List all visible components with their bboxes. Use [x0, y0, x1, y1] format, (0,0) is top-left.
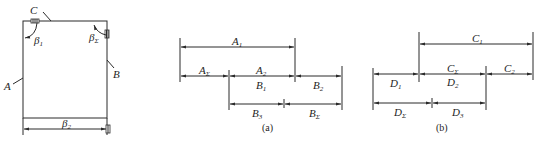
label-b-sigma: BΣ	[309, 107, 321, 121]
label-b1: B1	[256, 79, 266, 93]
label-c-sigma: CΣ	[447, 62, 459, 76]
label-a-sigma: AΣ	[198, 64, 211, 78]
label-c2: C2	[504, 62, 515, 76]
label-d3: D3	[451, 106, 464, 120]
leader-b	[107, 60, 114, 68]
label-d-sigma: DΣ	[393, 106, 407, 120]
part-rectangle-figure: C A B β1 βΣ β2	[3, 4, 120, 135]
label-d2: D2	[446, 76, 459, 90]
label-c1: C1	[472, 32, 483, 46]
label-b3: B3	[252, 107, 263, 121]
label-beta1: β1	[33, 34, 43, 48]
caption-b: (b)	[436, 122, 448, 134]
label-beta2: β2	[61, 117, 71, 131]
dimension-chain-diagrams: C A B β1 βΣ β2 A1 AΣ A2 B1 B2 B3 BΣ (a)	[0, 0, 537, 146]
label-a: A	[3, 80, 11, 92]
caption-a: (a)	[262, 122, 273, 134]
label-d1: D1	[389, 77, 401, 91]
label-c: C	[30, 4, 38, 16]
dimension-chain-a: A1 AΣ A2 B1 B2 B3 BΣ (a)	[180, 35, 342, 134]
leader-a	[13, 78, 23, 84]
label-a1: A1	[231, 35, 242, 49]
label-b2: B2	[313, 79, 324, 93]
dimension-chain-b: C1 CΣ C2 D1 D2 DΣ D3 (b)	[373, 32, 533, 134]
leader-c	[43, 12, 51, 21]
label-a2: A2	[255, 64, 267, 78]
angle-arc-beta-sigma	[94, 25, 106, 35]
label-beta-sigma: βΣ	[88, 31, 99, 45]
label-b: B	[113, 68, 120, 80]
